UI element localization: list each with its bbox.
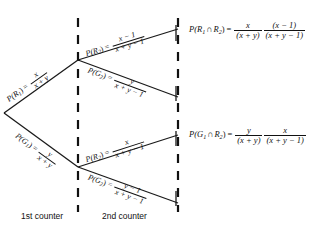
result-rr-fraction-1: x(x + y) xyxy=(234,21,261,39)
result-gr-fraction-1: y(x + y) xyxy=(235,126,262,144)
result-gr-equals: = xyxy=(227,129,232,139)
result-expression-rr: P(R1∩R2)=x(x + y)(x − 1)(x + y − 1) xyxy=(189,21,306,39)
result-gr-sub1: 1 xyxy=(203,134,206,140)
result-gr-frac2-denominator: (x + y − 1) xyxy=(264,136,305,145)
branch-label-r1-g2-equals: = xyxy=(106,73,113,83)
branch-label-r1-r2-equals: = xyxy=(104,42,111,52)
result-gr-suffix: ) xyxy=(223,129,226,139)
result-rr-equals: = xyxy=(227,24,232,34)
stage-caption-1st-counter: 1st counter xyxy=(21,211,63,221)
result-rr-fraction-2: (x − 1)(x + y − 1) xyxy=(264,21,305,39)
result-rr-frac1-denominator: (x + y) xyxy=(234,31,261,40)
result-rr-sub1: 1 xyxy=(202,29,205,35)
result-gr-intersection: ∩ xyxy=(207,129,213,139)
result-rr-intersection: ∩ xyxy=(206,24,212,34)
result-gr-fraction-2: x(x + y − 1) xyxy=(264,126,305,144)
result-gr-prefix: P(G xyxy=(189,129,203,139)
result-rr-frac2-denominator: (x + y − 1) xyxy=(264,31,305,40)
stage-caption-2nd-counter: 2nd counter xyxy=(102,211,147,221)
probability-tree-diagram: P(R1)=xx + y P(G1)=yx + y P(R2)=x − 1x +… xyxy=(0,0,326,229)
branch-label-g1-r2-equals: = xyxy=(103,148,110,158)
result-rr-suffix: ) xyxy=(222,24,225,34)
result-gr-frac1-denominator: (x + y) xyxy=(235,136,262,145)
result-rr-prefix: P(R xyxy=(189,24,202,34)
branch-label-g1-g2-equals: = xyxy=(106,180,113,190)
result-expression-gr: P(G1∩R2)=y(x + y)x(x + y − 1) xyxy=(189,126,307,144)
